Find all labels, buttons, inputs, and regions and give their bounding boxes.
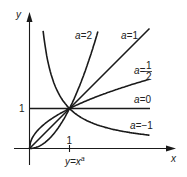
label-a-half: a= 1 2 xyxy=(134,60,152,82)
label-a0: a=0 xyxy=(134,94,151,105)
x-axis-arrow-icon xyxy=(166,146,176,152)
label-a-half-numerator: 1 xyxy=(146,60,152,71)
power-function-diagram: y x 1 1 a=2 a=1 a= 1 2 a=0 a=−1 y=xa xyxy=(0,0,187,177)
y-axis-label: y xyxy=(15,9,22,20)
y-axis-arrow-icon xyxy=(27,12,33,22)
x-axis-label: x xyxy=(170,153,177,164)
y-tick-label: 1 xyxy=(19,103,25,114)
caption-formula: y=xa xyxy=(64,155,85,167)
label-a-half-prefix: a= xyxy=(134,65,146,76)
label-a-minus1: a=−1 xyxy=(130,120,153,131)
label-a-half-denominator: 2 xyxy=(146,71,152,82)
label-a2: a=2 xyxy=(75,30,92,41)
label-a1: a=1 xyxy=(121,30,138,41)
x-tick-label: 1 xyxy=(67,135,73,146)
